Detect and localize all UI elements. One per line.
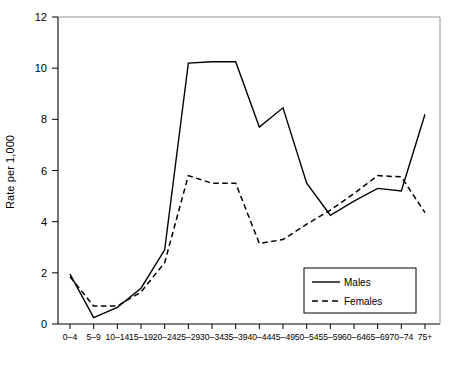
x-tick-label: 0–4 [63, 332, 78, 342]
y-tick-label: 2 [41, 267, 47, 279]
x-tick-label: 60–64 [342, 332, 366, 342]
x-tick-label: 10–14 [105, 332, 129, 342]
legend-box: Males Females [304, 268, 416, 313]
line-chart: 024681012 0–45–910–1415–1920–2425–2930–3… [0, 0, 454, 366]
x-tick-label: 5–9 [86, 332, 101, 342]
x-tick-label: 45–49 [271, 332, 295, 342]
x-axis-ticks: 0–45–910–1415–1920–2425–2930–3435–3940–4… [63, 324, 432, 342]
x-tick-label: 15–19 [129, 332, 153, 342]
chart-figure: Rate per 1,000 024681012 0–45–910–1415–1… [0, 0, 454, 366]
legend-label-males: Males [344, 277, 371, 288]
x-tick-label: 25–29 [176, 332, 200, 342]
x-tick-label: 20–24 [153, 332, 177, 342]
x-tick-label: 70–74 [389, 332, 413, 342]
y-tick-label: 12 [35, 11, 47, 23]
y-tick-label: 10 [35, 62, 47, 74]
x-tick-label: 75+ [418, 332, 433, 342]
x-tick-label: 30–34 [200, 332, 224, 342]
y-tick-label: 0 [41, 318, 47, 330]
x-tick-label: 35–39 [224, 332, 248, 342]
x-tick-label: 50–54 [295, 332, 319, 342]
y-tick-label: 6 [41, 165, 47, 177]
x-tick-label: 40–44 [247, 332, 271, 342]
y-tick-label: 8 [41, 113, 47, 125]
y-tick-label: 4 [41, 216, 47, 228]
x-tick-label: 55–59 [318, 332, 342, 342]
y-axis-ticks: 024681012 [35, 11, 58, 330]
x-tick-label: 65–69 [366, 332, 390, 342]
legend-label-females: Females [344, 296, 382, 307]
